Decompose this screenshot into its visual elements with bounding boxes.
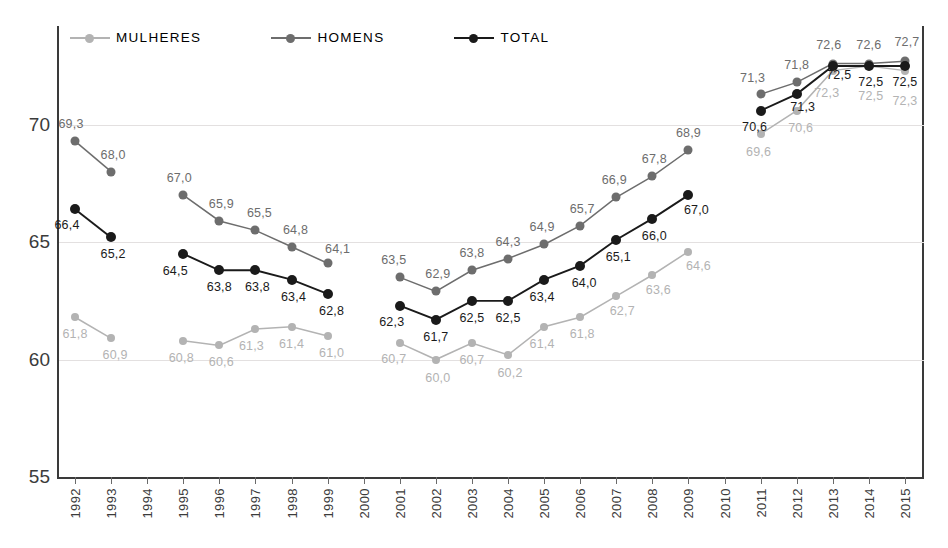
data-point-homens-1997[interactable] [251, 226, 260, 235]
data-label-mulheres-1997: 61,3 [239, 339, 264, 353]
x-tick-label-2004: 2004 [501, 488, 516, 519]
y-axis-line [57, 26, 59, 478]
data-point-mulheres-2008[interactable] [648, 271, 656, 279]
x-tick-label-2009: 2009 [681, 488, 696, 519]
data-point-homens-1993[interactable] [107, 167, 116, 176]
legend-item-homens[interactable]: HOMENS [271, 30, 384, 45]
data-point-homens-2005[interactable] [540, 240, 549, 249]
data-point-total-1996[interactable] [214, 265, 224, 275]
data-point-total-2002[interactable] [431, 315, 441, 325]
data-point-homens-2002[interactable] [431, 287, 440, 296]
data-label-total-2003: 62,5 [459, 311, 484, 325]
data-label-mulheres-2006: 61,8 [570, 327, 595, 341]
data-point-total-1995[interactable] [178, 249, 188, 259]
x-tick-label-2000: 2000 [357, 488, 372, 519]
data-point-total-1999[interactable] [323, 289, 333, 299]
x-tick-1997 [255, 477, 256, 484]
data-point-total-2011[interactable] [756, 106, 766, 116]
data-point-total-2008[interactable] [647, 214, 657, 224]
data-point-total-2009[interactable] [683, 190, 693, 200]
data-label-homens-1995: 67,0 [167, 171, 192, 185]
legend-marker-homens [271, 32, 311, 44]
data-label-mulheres-2002: 60,0 [425, 371, 450, 385]
data-label-total-1999: 62,8 [319, 304, 344, 318]
data-point-homens-1996[interactable] [215, 216, 224, 225]
data-label-mulheres-1992: 61,8 [62, 327, 87, 341]
data-point-homens-1995[interactable] [179, 191, 188, 200]
data-point-homens-1992[interactable] [71, 137, 80, 146]
data-point-total-2006[interactable] [575, 261, 585, 271]
legend-item-mulheres[interactable]: MULHERES [70, 30, 201, 45]
data-point-mulheres-1995[interactable] [179, 337, 187, 345]
x-tick-2004 [508, 477, 509, 484]
data-label-total-1992: 66,4 [54, 218, 79, 232]
right-border-line [922, 26, 924, 478]
legend-item-total[interactable]: TOTAL [454, 30, 549, 45]
y-tick-label-60: 60 [14, 349, 50, 371]
legend-label-total: TOTAL [500, 30, 549, 45]
data-point-homens-2007[interactable] [612, 193, 621, 202]
x-tick-label-1999: 1999 [321, 488, 336, 519]
chart-legend: MULHERES HOMENS TOTAL [70, 30, 549, 45]
data-label-homens-2012: 71,8 [784, 58, 809, 72]
data-point-mulheres-2007[interactable] [612, 292, 620, 300]
data-point-mulheres-2006[interactable] [576, 313, 584, 321]
data-point-mulheres-2009[interactable] [684, 248, 692, 256]
legend-marker-total [454, 32, 494, 44]
data-point-homens-2008[interactable] [648, 172, 657, 181]
data-label-mulheres-1998: 61,4 [279, 337, 304, 351]
data-point-mulheres-2003[interactable] [468, 339, 476, 347]
data-label-total-2011: 70,6 [742, 120, 767, 134]
data-point-mulheres-1998[interactable] [288, 323, 296, 331]
data-label-mulheres-2009: 64,6 [686, 259, 711, 273]
legend-marker-mulheres [70, 32, 110, 44]
data-point-total-1997[interactable] [250, 265, 260, 275]
x-tick-2009 [688, 477, 689, 484]
data-point-homens-2004[interactable] [504, 254, 513, 263]
data-point-total-1998[interactable] [287, 275, 297, 285]
data-label-homens-2009: 68,9 [676, 126, 701, 140]
data-point-total-2015[interactable] [900, 61, 910, 71]
data-label-homens-1996: 65,9 [209, 197, 234, 211]
data-point-mulheres-2005[interactable] [540, 323, 548, 331]
data-point-homens-2012[interactable] [792, 78, 801, 87]
data-point-mulheres-2002[interactable] [432, 356, 440, 364]
data-point-homens-1999[interactable] [323, 259, 332, 268]
data-point-homens-2001[interactable] [395, 273, 404, 282]
data-point-homens-2011[interactable] [756, 90, 765, 99]
data-point-total-2014[interactable] [864, 61, 874, 71]
data-point-mulheres-1993[interactable] [107, 334, 115, 342]
x-tick-label-1992: 1992 [68, 488, 83, 519]
data-label-homens-2007: 66,9 [602, 173, 627, 187]
data-point-total-2012[interactable] [792, 89, 802, 99]
x-tick-2013 [833, 477, 834, 484]
data-point-total-2004[interactable] [503, 296, 513, 306]
data-point-homens-2003[interactable] [467, 266, 476, 275]
data-point-total-1992[interactable] [70, 204, 80, 214]
data-label-homens-2013: 72,6 [816, 38, 841, 52]
data-point-total-2007[interactable] [611, 235, 621, 245]
data-point-homens-2006[interactable] [576, 221, 585, 230]
data-label-total-2005: 63,4 [530, 290, 555, 304]
data-point-total-2005[interactable] [539, 275, 549, 285]
data-label-homens-2003: 63,8 [459, 246, 484, 260]
data-point-mulheres-1997[interactable] [251, 325, 259, 333]
data-point-mulheres-1999[interactable] [324, 332, 332, 340]
data-point-total-2003[interactable] [467, 296, 477, 306]
data-point-mulheres-2004[interactable] [504, 351, 512, 359]
data-point-total-1993[interactable] [106, 232, 116, 242]
data-point-total-2001[interactable] [395, 301, 405, 311]
data-point-homens-1998[interactable] [287, 242, 296, 251]
data-point-homens-2009[interactable] [684, 146, 693, 155]
data-point-mulheres-1996[interactable] [215, 341, 223, 349]
data-label-total-2004: 62,5 [495, 311, 520, 325]
data-label-homens-2011: 71,3 [740, 71, 765, 85]
x-tick-1996 [219, 477, 220, 484]
data-label-mulheres-1996: 60,6 [209, 355, 234, 369]
data-label-mulheres-1993: 60,9 [103, 348, 128, 362]
data-label-total-2013: 72,5 [826, 68, 851, 82]
data-point-mulheres-2001[interactable] [396, 339, 404, 347]
data-point-mulheres-1992[interactable] [71, 313, 79, 321]
x-tick-label-1996: 1996 [212, 488, 227, 519]
x-tick-2008 [652, 477, 653, 484]
